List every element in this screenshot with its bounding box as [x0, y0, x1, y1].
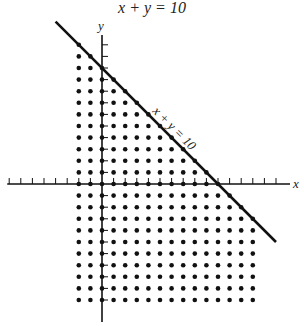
- lattice-point: [77, 193, 82, 198]
- lattice-point: [158, 170, 163, 175]
- lattice-point: [169, 263, 174, 268]
- lattice-point: [169, 251, 174, 256]
- lattice-point: [181, 240, 186, 245]
- lattice-point: [204, 251, 209, 256]
- lattice-point: [193, 275, 198, 280]
- lattice-point: [135, 251, 140, 256]
- lattice-point: [111, 89, 116, 94]
- lattice-plot: xyx + y = 10: [0, 0, 304, 326]
- lattice-point: [88, 77, 93, 82]
- lattice-point: [77, 124, 82, 129]
- lattice-point: [123, 298, 128, 303]
- lattice-point: [88, 286, 93, 291]
- lattice-point: [193, 298, 198, 303]
- lattice-point: [251, 240, 256, 245]
- lattice-point: [251, 286, 256, 291]
- lattice-point: [239, 275, 244, 280]
- lattice-point: [123, 286, 128, 291]
- lattice-point: [123, 251, 128, 256]
- lattice-point: [111, 147, 116, 152]
- lattice-point: [77, 182, 82, 187]
- lattice-point: [239, 286, 244, 291]
- lattice-point: [158, 228, 163, 233]
- lattice-point: [100, 240, 105, 245]
- lattice-point: [216, 286, 221, 291]
- lattice-point: [181, 275, 186, 280]
- lattice-point: [77, 251, 82, 256]
- lattice-point: [77, 101, 82, 106]
- lattice-point: [204, 286, 209, 291]
- lattice-point: [193, 228, 198, 233]
- y-axis-label: y: [96, 18, 104, 33]
- lattice-point: [181, 217, 186, 222]
- lattice-point: [100, 77, 105, 82]
- lattice-point: [111, 240, 116, 245]
- lattice-point: [100, 275, 105, 280]
- lattice-point: [181, 286, 186, 291]
- lattice-point: [88, 135, 93, 140]
- lattice-point: [88, 298, 93, 303]
- x-axis-label: x: [292, 176, 299, 191]
- lattice-point: [88, 66, 93, 71]
- lattice-point: [123, 193, 128, 198]
- lattice-point: [146, 135, 151, 140]
- lattice-point: [158, 275, 163, 280]
- lattice-point: [181, 170, 186, 175]
- lattice-point: [193, 251, 198, 256]
- lattice-point: [111, 263, 116, 268]
- lattice-point: [146, 193, 151, 198]
- lattice-point: [123, 112, 128, 117]
- lattice-point: [123, 240, 128, 245]
- lattice-point: [193, 240, 198, 245]
- lattice-point: [146, 124, 151, 129]
- lattice-point: [181, 182, 186, 187]
- lattice-point: [88, 170, 93, 175]
- lattice-point: [227, 275, 232, 280]
- lattice-point: [251, 251, 256, 256]
- lattice-point: [169, 275, 174, 280]
- lattice-point: [216, 205, 221, 210]
- lattice-point: [77, 66, 82, 71]
- lattice-point: [123, 263, 128, 268]
- lattice-point: [169, 159, 174, 164]
- lattice-point: [100, 193, 105, 198]
- lattice-point: [88, 159, 93, 164]
- lattice-point: [251, 263, 256, 268]
- lattice-point: [169, 182, 174, 187]
- lattice-point: [146, 275, 151, 280]
- lattice-point: [111, 193, 116, 198]
- lattice-point: [111, 112, 116, 117]
- lattice-point: [158, 240, 163, 245]
- lattice-point: [77, 263, 82, 268]
- lattice-point: [216, 240, 221, 245]
- lattice-point: [123, 170, 128, 175]
- lattice-point: [111, 205, 116, 210]
- lattice-point: [204, 275, 209, 280]
- lattice-point: [216, 193, 221, 198]
- lattice-point: [216, 251, 221, 256]
- lattice-point: [135, 205, 140, 210]
- lattice-point: [123, 135, 128, 140]
- lattice-point: [123, 124, 128, 129]
- lattice-point: [146, 228, 151, 233]
- lattice-point: [77, 112, 82, 117]
- lattice-point: [181, 205, 186, 210]
- lattice-point: [88, 182, 93, 187]
- lattice-point: [169, 228, 174, 233]
- lattice-point: [123, 275, 128, 280]
- lattice-point: [204, 182, 209, 187]
- lattice-point: [123, 217, 128, 222]
- lattice-point: [123, 228, 128, 233]
- lattice-point: [135, 298, 140, 303]
- lattice-point: [88, 101, 93, 106]
- lattice-point: [204, 298, 209, 303]
- lattice-point: [100, 89, 105, 94]
- lattice-point: [227, 228, 232, 233]
- lattice-point: [88, 112, 93, 117]
- lattice-point: [135, 147, 140, 152]
- lattice-point: [181, 263, 186, 268]
- lattice-point: [111, 251, 116, 256]
- lattice-point: [88, 89, 93, 94]
- lattice-point: [100, 205, 105, 210]
- lattice-point: [77, 170, 82, 175]
